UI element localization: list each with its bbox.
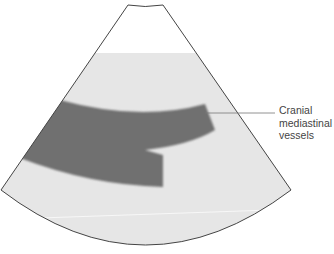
label-line-3: vessels (279, 129, 332, 142)
label-line-1: Cranial (279, 104, 332, 117)
vessel-label: Cranial mediastinal vessels (279, 104, 332, 142)
label-line-2: mediastinal (279, 117, 332, 130)
ultrasound-diagram: Cranial mediastinal vessels (0, 0, 334, 254)
